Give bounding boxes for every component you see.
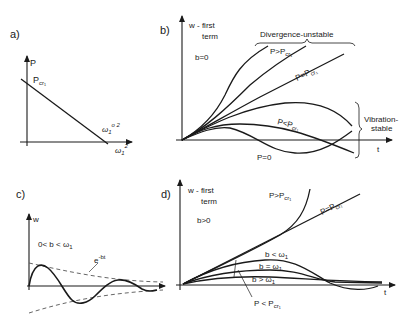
panel-d-label: d): [161, 188, 171, 200]
vibration-label-line1: Vibration-: [364, 115, 398, 124]
y-axis-label: w: [32, 215, 39, 224]
curve-label-b-equal: b = ω1: [259, 262, 283, 272]
panel-c: c) w 0< b < ω1 e-bt: [16, 188, 165, 313]
x-axis-label: ω12: [115, 143, 129, 156]
condition-label: 0< b < ω1: [38, 240, 73, 250]
curve-label-below: P < Pcr₁: [254, 299, 281, 309]
stability-line: [21, 79, 108, 144]
group-bracket: [234, 260, 236, 277]
curve-p-below-2: [182, 124, 354, 153]
divergence-unstable-label: Divergence-unstable: [260, 30, 334, 39]
curve-label-equal: P=Pcr₁: [294, 65, 318, 84]
curve-p-below-1: [182, 103, 352, 140]
omega-intercept-label: ω1o 2: [102, 122, 121, 135]
curve-label-equal: P=Pcr₁: [319, 199, 343, 218]
x-axis-label: t: [377, 145, 380, 154]
curve-label-above: P>Pcr₁: [270, 47, 292, 57]
panel-a-label: a): [10, 28, 20, 40]
x-axis-label: t: [384, 288, 387, 297]
pcr-label: Pcr₁: [33, 75, 46, 86]
y-axis-label-line1: w - first: [188, 21, 216, 30]
panel-b: b) w - first term b=0 t P>Pcr₁ P=Pcr₁ P<…: [160, 16, 398, 162]
y-axis-label: P: [30, 58, 36, 68]
envelope-label: e-bt: [94, 254, 106, 265]
panel-c-label: c): [16, 188, 25, 200]
curve-label-above: P>Pcr₁: [269, 191, 291, 201]
y-axis-label-line1: w - first: [187, 186, 215, 195]
condition-label: b=0: [195, 53, 209, 62]
panel-b-label: b): [160, 24, 170, 36]
curve-label-b-less: b < ω1: [265, 250, 289, 260]
divergence-brace: [255, 39, 355, 46]
envelope-upper: [29, 263, 163, 282]
curve-label-zero: P=0: [257, 153, 272, 162]
panel-d: d) w - first term b>0 t P>Pcr₁ P=Pcr₁ b …: [161, 180, 395, 309]
vibration-label-line2: stable: [371, 124, 393, 133]
envelope-lower: [29, 290, 163, 313]
figure-canvas: a) P Pcr₁ ω1o 2 ω12 b) w - first term b=…: [0, 0, 419, 327]
condition-label: b>0: [197, 216, 211, 225]
leader-line: [238, 270, 252, 297]
y-axis-label-line2: term: [202, 32, 218, 41]
vibration-brace: [355, 102, 362, 158]
panel-a: a) P Pcr₁ ω1o 2 ω12: [10, 28, 132, 156]
damped-oscillation-curve: [29, 265, 157, 303]
y-axis-label-line2: term: [201, 197, 217, 206]
